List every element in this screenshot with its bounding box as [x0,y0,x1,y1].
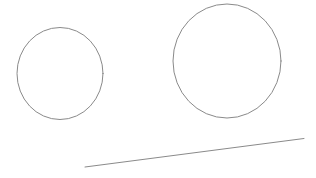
drawing-canvas[interactable] [0,0,316,178]
drawing-surface[interactable] [0,0,316,178]
canvas-background [0,0,316,178]
